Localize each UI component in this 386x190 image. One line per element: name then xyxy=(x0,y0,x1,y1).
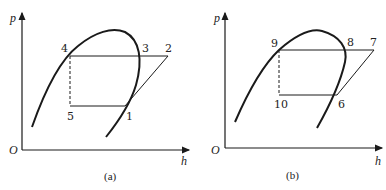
ph-diagrams: p h O 4 3 2 5 1 (a) p h O 9 8 7 10 6 (b) xyxy=(0,0,386,190)
point-7-label: 7 xyxy=(370,36,377,49)
point-4-label: 4 xyxy=(61,42,68,55)
point-8-label: 8 xyxy=(347,36,354,49)
panel-b: p h O 9 8 7 10 6 (b) xyxy=(211,11,382,182)
point-2-label: 2 xyxy=(165,42,172,55)
point-3-label: 3 xyxy=(142,42,149,55)
y-axis-label: p xyxy=(213,11,220,25)
y-axis-label: p xyxy=(9,11,16,25)
origin-label: O xyxy=(9,143,18,157)
point-10-label: 10 xyxy=(274,98,288,111)
origin-label: O xyxy=(211,143,220,157)
caption-b: (b) xyxy=(286,169,299,182)
point-6-label: 6 xyxy=(338,98,345,111)
x-axis-label: h xyxy=(181,154,187,168)
point-1-label: 1 xyxy=(126,110,133,123)
caption-a: (a) xyxy=(104,170,117,183)
point-9-label: 9 xyxy=(271,37,278,50)
line-2-1 xyxy=(125,56,168,106)
x-axis-label: h xyxy=(375,154,381,168)
point-5-label: 5 xyxy=(67,110,74,123)
saturation-dome xyxy=(32,30,140,137)
panel-a: p h O 4 3 2 5 1 (a) xyxy=(9,11,189,183)
saturation-dome xyxy=(235,30,346,128)
